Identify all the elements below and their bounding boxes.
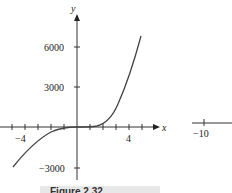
right-panel-tick-label: −10 (193, 128, 209, 139)
tick-label-4: 4 (126, 133, 131, 144)
x-axis-label: x (161, 122, 167, 133)
figure-caption: Figure 2.32 (40, 186, 160, 193)
y-axis-label: y (70, 3, 76, 14)
chart-canvas: y x −4 4 6000 3000 −3000 −10 (0, 0, 232, 193)
x-axis-arrow-icon (153, 124, 160, 130)
tick-label-neg3000: −3000 (39, 163, 65, 174)
tick-label-6000: 6000 (44, 42, 64, 53)
tick-label-neg4: −4 (15, 133, 26, 144)
y-axis-arrow-icon (74, 14, 80, 21)
tick-label-3000: 3000 (44, 82, 64, 93)
